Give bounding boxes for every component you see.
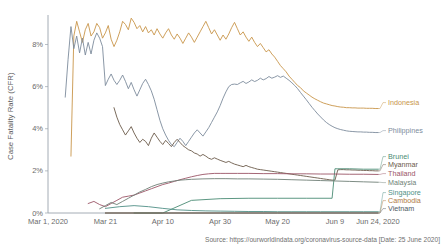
x-axis-tick-label: Apr 30: [209, 217, 231, 226]
legend-label-brunei[interactable]: Brunei: [388, 152, 409, 161]
legend-label-indonesia[interactable]: Indonesia: [388, 98, 419, 107]
legend-label-philippines[interactable]: Philippines: [388, 126, 423, 135]
legend-label-thailand[interactable]: Thailand: [388, 169, 416, 178]
x-axis-tick-label: Apr 10: [152, 217, 174, 226]
x-axis-tick-label: May 20: [265, 217, 290, 226]
y-axis-tick-label: 8%: [32, 40, 43, 49]
cfr-line-chart: Case Fatality Rate (CFR) 0%2%4%6%8% Mar …: [0, 0, 448, 249]
x-axis-tick-label: Mar 1, 2020: [28, 217, 68, 226]
y-axis-tick-label: 4%: [32, 124, 43, 133]
y-axis-tick-label: 2%: [32, 166, 43, 175]
x-axis-tick-label: Jun 24, 2020: [356, 217, 399, 226]
legend-label-vietnam[interactable]: Vietnam: [388, 204, 414, 213]
legend-label-myanmar[interactable]: Myanmar: [388, 160, 419, 169]
y-axis-tick-label: 6%: [32, 82, 43, 91]
legend-label-malaysia[interactable]: Malaysia: [388, 178, 416, 187]
y-axis-title: Case Fatality Rate (CFR): [6, 72, 15, 160]
chart-canvas: Case Fatality Rate (CFR) 0%2%4%6%8% Mar …: [0, 0, 448, 249]
x-axis-tick-label: Mar 21: [94, 217, 117, 226]
x-axis-tick-label: Jun 9: [326, 217, 344, 226]
source-note: Source: https://ourworldindata.org/coron…: [205, 236, 440, 244]
